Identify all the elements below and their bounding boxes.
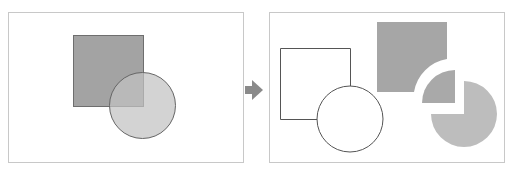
- after-panel: [270, 13, 505, 163]
- filled-circle: [110, 73, 176, 139]
- outline-circle: [317, 86, 383, 152]
- arrow-right-icon: [245, 80, 263, 100]
- fragment-diagram: [0, 0, 513, 175]
- before-panel: [9, 13, 244, 163]
